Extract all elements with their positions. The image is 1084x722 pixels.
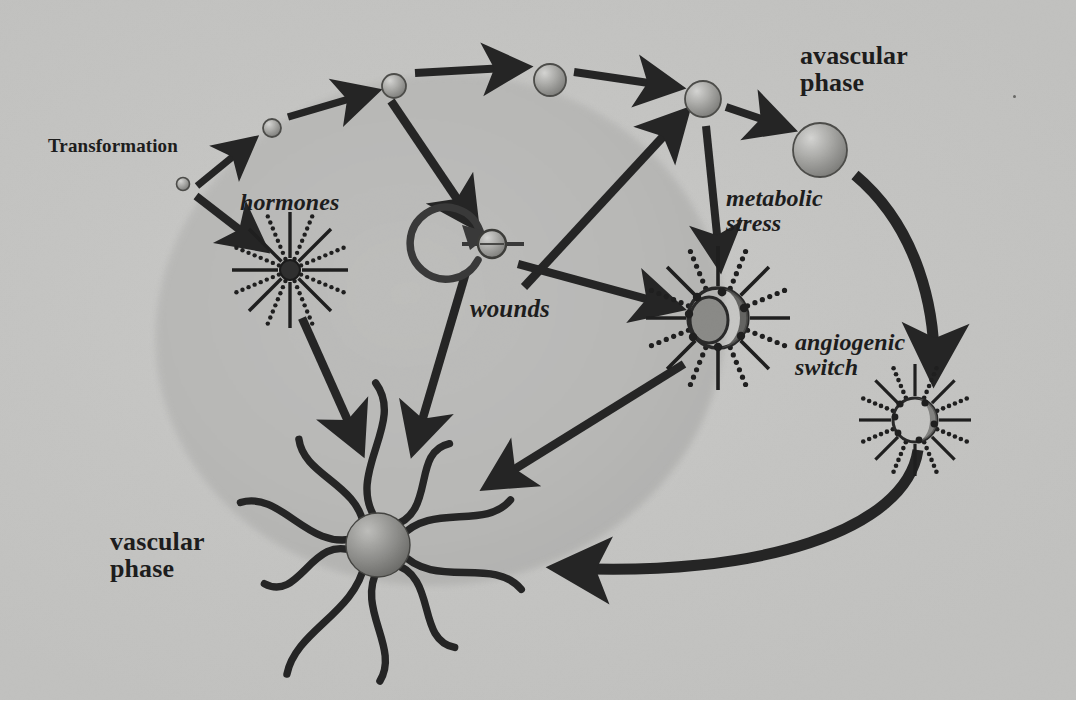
label-angiogenic-switch: angiogenic switch	[795, 330, 905, 380]
label-transformation: Transformation	[48, 136, 178, 156]
scan-speck	[1013, 95, 1016, 98]
cell-transformed-4	[534, 64, 566, 96]
label-wounds: wounds	[470, 296, 550, 322]
cell-transformed-3	[382, 74, 406, 98]
figure-root: Transformation hormones wounds metabolic…	[0, 0, 1084, 722]
stress-cell	[646, 246, 790, 390]
switch-cell	[859, 364, 971, 476]
hormone-cell	[232, 212, 348, 328]
arrow-cell4-to-cell5	[574, 72, 676, 87]
label-vascular-phase: vascular phase	[110, 528, 205, 583]
cell-avascular	[793, 123, 847, 177]
label-avascular-phase: avascular phase	[800, 42, 908, 97]
tissue-ellipse	[122, 38, 757, 622]
cell-transformed-5	[685, 81, 721, 117]
label-metabolic-stress: metabolic stress	[726, 186, 823, 236]
label-hormones: hormones	[240, 190, 340, 215]
cell-transformed-2	[263, 119, 281, 137]
arrow-cell3-to-cell4	[415, 67, 523, 73]
arrow-cell5-to-avascular	[726, 107, 788, 128]
diagram-canvas	[0, 0, 1084, 722]
cell-transformed-1	[177, 178, 190, 191]
